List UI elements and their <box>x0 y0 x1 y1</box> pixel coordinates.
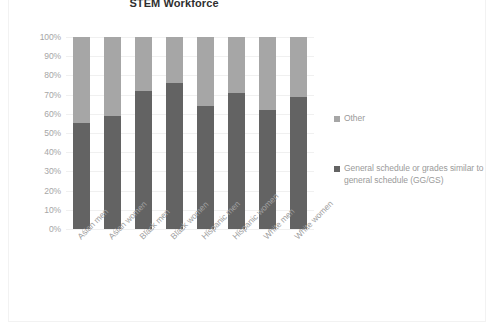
y-axis-tick-label: 30% <box>44 167 61 176</box>
bar-segment-other[interactable] <box>197 37 214 106</box>
bar-segment-other[interactable] <box>73 37 90 123</box>
y-axis-tick-label: 40% <box>44 148 61 157</box>
bar-column[interactable] <box>290 37 307 229</box>
legend-item-general-schedule[interactable]: General schedule or grades similar to ge… <box>334 163 494 186</box>
y-axis-tick-label: 80% <box>44 71 61 80</box>
y-axis-tick-label: 0% <box>49 225 61 234</box>
legend-label-general-schedule: General schedule or grades similar to ge… <box>344 163 494 186</box>
bar-column[interactable] <box>197 37 214 229</box>
bar-segment-other[interactable] <box>259 37 276 110</box>
bar-segment-other[interactable] <box>228 37 245 93</box>
legend-item-other[interactable]: Other <box>334 113 365 125</box>
y-axis-tick-label: 10% <box>44 205 61 214</box>
chart-title: STEM Workforce <box>9 0 339 9</box>
y-axis-tick-label: 50% <box>44 129 61 138</box>
bar-column[interactable] <box>104 37 121 229</box>
x-axis-category-labels: Asian menAsian womenBlack menBlack women… <box>66 233 326 303</box>
bar-segment-general-schedule[interactable] <box>73 123 90 229</box>
chart-frame: STEM Workforce 100%90%80%70%60%50%40%30%… <box>8 0 486 322</box>
y-axis-tick-label: 100% <box>40 33 61 42</box>
y-axis-tick-label: 90% <box>44 52 61 61</box>
bar-column[interactable] <box>166 37 183 229</box>
bar-segment-general-schedule[interactable] <box>166 83 183 229</box>
bar-column[interactable] <box>73 37 90 229</box>
y-axis: 100%90%80%70%60%50%40%30%20%10%0% <box>19 37 61 229</box>
y-axis-tick-label: 70% <box>44 90 61 99</box>
y-axis-tick-label: 20% <box>44 186 61 195</box>
bar-segment-other[interactable] <box>135 37 152 91</box>
legend-swatch-other <box>334 116 340 122</box>
bar-segment-other[interactable] <box>166 37 183 83</box>
legend-swatch-general-schedule <box>334 166 340 172</box>
bar-segment-other[interactable] <box>290 37 307 97</box>
legend-label-other: Other <box>344 113 365 125</box>
y-axis-tick-label: 60% <box>44 109 61 118</box>
bar-segment-other[interactable] <box>104 37 121 116</box>
